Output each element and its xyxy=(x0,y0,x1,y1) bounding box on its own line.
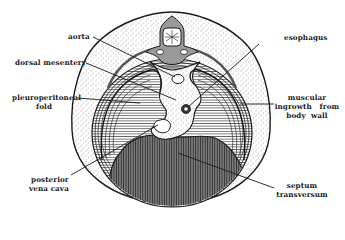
esophagus-lumen xyxy=(184,107,188,111)
label-muscular-ingrowth-line3: body wall xyxy=(272,111,342,120)
septum-transversum-region xyxy=(110,135,246,214)
label-posterior-vena-cava-line2: vena cava xyxy=(29,184,69,193)
label-septum-transversum-line1: septum xyxy=(272,181,332,190)
label-muscular-ingrowth-line2: ingrowth from xyxy=(272,102,342,111)
label-pleuroperitoneal-fold-line2: fold xyxy=(12,102,76,111)
right-foramen xyxy=(181,50,188,55)
label-muscular-ingrowth-line1: muscular xyxy=(272,93,342,102)
label-muscular-ingrowth: muscular ingrowth from body wall xyxy=(272,93,342,120)
label-pleuroperitoneal-fold-line1: pleuroperitoneal xyxy=(12,93,76,102)
label-septum-transversum: septum transversum xyxy=(272,181,332,199)
label-posterior-vena-cava-line1: posterior xyxy=(29,175,69,184)
label-aorta: aorta xyxy=(68,32,90,41)
label-pleuroperitoneal-fold: pleuroperitoneal fold xyxy=(12,93,76,111)
label-posterior-vena-cava: posterior vena cava xyxy=(29,175,69,193)
label-septum-transversum-line2: transversum xyxy=(272,190,332,199)
aorta xyxy=(172,75,184,84)
label-esophagus: esophagus xyxy=(284,33,328,42)
label-dorsal-mesentery: dorsal mesentery xyxy=(15,58,86,67)
left-foramen xyxy=(157,50,164,55)
